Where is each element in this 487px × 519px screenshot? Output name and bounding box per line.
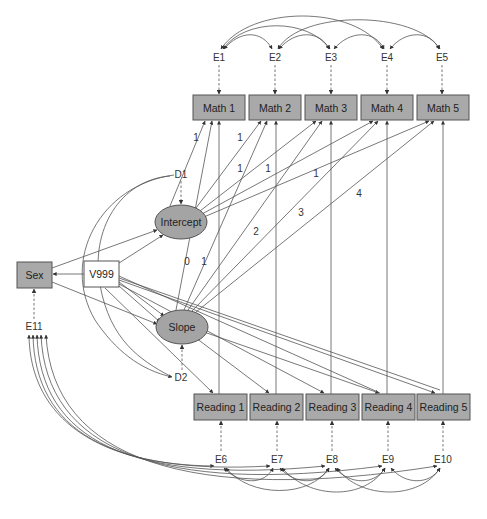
math-error-paths — [219, 65, 442, 94]
reading-label: Reading 1 — [197, 401, 245, 413]
reading-label: Reading 2 — [253, 401, 301, 413]
math-label: Math 5 — [427, 102, 459, 114]
math-observed-boxes: Math 1Math 2Math 3Math 4Math 5 — [193, 95, 469, 120]
reading-box-3: Reading 3 — [306, 394, 359, 420]
loading-value: 1 — [237, 163, 243, 174]
math-label: Math 4 — [371, 102, 403, 114]
error-term-d1: D1 — [175, 169, 188, 180]
loading-labels: 1111143201 — [184, 132, 362, 267]
intercept-factor: Intercept — [155, 205, 207, 239]
reading-label: Reading 3 — [309, 401, 357, 413]
loading-value: 4 — [356, 188, 362, 199]
loading-value: 1 — [237, 132, 243, 143]
reading-error-paths — [221, 421, 443, 451]
loading-value: 1 — [201, 256, 207, 267]
math-box-2: Math 2 — [249, 95, 301, 120]
error-term-d2: D2 — [175, 372, 188, 383]
reading-box-2: Reading 2 — [250, 394, 303, 420]
svg-text:Sex: Sex — [25, 269, 44, 281]
error-term-e8: E8 — [326, 454, 339, 465]
slope-factor: Slope — [156, 310, 208, 344]
error-term-e4: E4 — [381, 52, 394, 63]
loading-value: 2 — [253, 226, 259, 237]
loading-value: 1 — [193, 132, 199, 143]
error-term-e9: E9 — [382, 454, 395, 465]
loading-value: 3 — [298, 207, 304, 218]
slope-loadings-math — [176, 121, 434, 312]
math-label: Math 2 — [259, 102, 291, 114]
math-error-covariances — [221, 16, 440, 49]
reading-box-5: Reading 5 — [417, 394, 470, 420]
error-term-e7: E7 — [271, 454, 284, 465]
loading-value: 1 — [265, 163, 271, 174]
error-term-e5: E5 — [436, 52, 449, 63]
paths-to-reading — [105, 276, 440, 393]
error-term-e10: E10 — [434, 454, 452, 465]
math-label: Math 3 — [315, 102, 347, 114]
error-term-e6: E6 — [215, 454, 228, 465]
intercept-label: Intercept — [161, 216, 202, 228]
error-term-e11: E11 — [25, 321, 42, 332]
reading-observed-boxes: Reading 1Reading 2Reading 3Reading 4Read… — [194, 394, 470, 420]
reading-label: Reading 5 — [420, 401, 468, 413]
path-diagram-canvas: Math 1Math 2Math 3Math 4Math 5 Reading 1… — [0, 0, 487, 519]
error-term-e3: E3 — [325, 52, 338, 63]
reading-vertical-loadings — [219, 121, 443, 394]
math-box-4: Math 4 — [361, 95, 413, 120]
error-term-e1: E1 — [213, 52, 226, 63]
error-term-e2: E2 — [269, 52, 282, 63]
loading-value: 0 — [184, 256, 190, 267]
reading-box-4: Reading 4 — [362, 394, 415, 420]
math-box-3: Math 3 — [305, 95, 357, 120]
svg-text:V999: V999 — [89, 268, 114, 280]
reading-box-1: Reading 1 — [194, 394, 247, 420]
v999-box: V999 — [84, 261, 119, 287]
math-box-1: Math 1 — [193, 95, 245, 120]
math-label: Math 1 — [203, 102, 235, 114]
slope-label: Slope — [169, 321, 196, 333]
reading-label: Reading 4 — [365, 401, 413, 413]
latent-factors: InterceptSlope — [155, 205, 208, 344]
math-box-5: Math 5 — [417, 95, 469, 120]
loading-value: 1 — [313, 168, 319, 179]
sex-box: Sex — [17, 262, 52, 288]
covariate-nodes: SexV999 — [17, 261, 119, 288]
